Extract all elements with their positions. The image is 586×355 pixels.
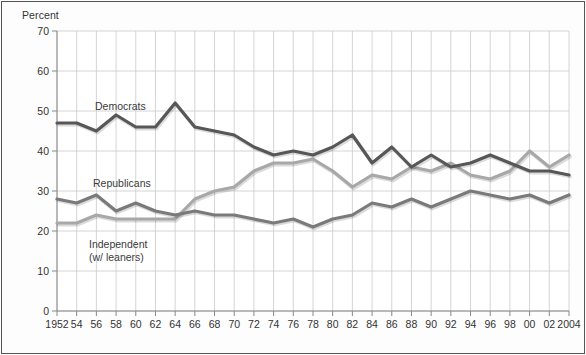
x-tick-label: 70 <box>228 318 240 330</box>
y-tick-label: 40 <box>37 145 49 157</box>
x-tick-label: 56 <box>91 318 103 330</box>
x-tick-label: 62 <box>150 318 162 330</box>
x-tick-label: 68 <box>209 318 221 330</box>
y-tick-label: 0 <box>43 305 49 317</box>
x-tick-label: 64 <box>169 318 181 330</box>
y-axis-ticks: 010203040506070 <box>37 25 57 317</box>
x-tick-label: 58 <box>110 318 122 330</box>
x-tick-label: 78 <box>307 318 319 330</box>
chart-figure: 0102030405060701952545658606264666870727… <box>0 0 586 355</box>
x-tick-label: 76 <box>287 318 299 330</box>
x-tick-label: 94 <box>465 318 477 330</box>
x-tick-label: 88 <box>406 318 418 330</box>
x-tick-label: 84 <box>366 318 378 330</box>
x-tick-label: 86 <box>386 318 398 330</box>
x-tick-label: 72 <box>248 318 260 330</box>
y-tick-label: 70 <box>37 25 49 37</box>
party-identification-line-chart: 0102030405060701952545658606264666870727… <box>0 0 586 355</box>
x-tick-label: 92 <box>445 318 457 330</box>
x-tick-label: 1952 <box>45 318 69 330</box>
x-tick-label: 74 <box>268 318 280 330</box>
x-tick-label: 60 <box>130 318 142 330</box>
x-tick-label: 82 <box>347 318 359 330</box>
x-tick-label: 2004 <box>557 318 581 330</box>
series-label-independent: Independent <box>89 238 147 250</box>
y-tick-label: 60 <box>37 65 49 77</box>
series-label-independent-sub: (w/ leaners) <box>89 251 144 263</box>
x-tick-label: 02 <box>543 318 555 330</box>
x-tick-label: 54 <box>71 318 83 330</box>
x-tick-label: 98 <box>504 318 516 330</box>
y-tick-label: 50 <box>37 105 49 117</box>
x-tick-label: 00 <box>524 318 536 330</box>
x-tick-label: 66 <box>189 318 201 330</box>
y-tick-label: 30 <box>37 185 49 197</box>
x-tick-label: 80 <box>327 318 339 330</box>
x-axis-ticks: 1952545658606264666870727476788082848688… <box>45 311 581 330</box>
y-tick-label: 20 <box>37 225 49 237</box>
series-label-republicans: Republicans <box>93 177 151 189</box>
y-tick-label: 10 <box>37 265 49 277</box>
x-tick-label: 96 <box>484 318 496 330</box>
series-label-democrats: Democrats <box>95 100 146 112</box>
x-tick-label: 90 <box>425 318 437 330</box>
y-axis-title: Percent <box>22 9 59 21</box>
